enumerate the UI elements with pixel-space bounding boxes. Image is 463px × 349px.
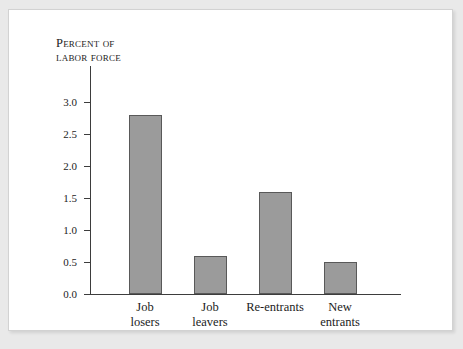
x-axis-line bbox=[90, 294, 401, 295]
y-tick-label: 2.0 bbox=[37, 161, 77, 172]
bar[interactable] bbox=[324, 262, 357, 294]
y-tick-mark bbox=[84, 294, 91, 295]
y-axis-title-line-2: labor force bbox=[56, 50, 121, 64]
bar[interactable] bbox=[259, 192, 292, 294]
y-tick-mark bbox=[84, 134, 91, 135]
bar-chart-plot-area: Percent of labor force 0.00.51.01.52.02.… bbox=[9, 10, 454, 332]
y-tick-mark bbox=[84, 262, 91, 263]
y-tick-label: 2.5 bbox=[37, 129, 77, 140]
x-category-label-line: leavers bbox=[165, 315, 255, 330]
x-category-label-line: entrants bbox=[295, 315, 385, 330]
y-tick-label: 1.0 bbox=[37, 225, 77, 236]
y-tick-label: 1.5 bbox=[37, 193, 77, 204]
y-tick-mark bbox=[84, 198, 91, 199]
y-tick-mark bbox=[84, 166, 91, 167]
y-tick-label: 0.5 bbox=[37, 257, 77, 268]
y-axis-title-line-1: Percent of bbox=[56, 36, 121, 50]
y-tick-mark bbox=[84, 102, 91, 103]
x-category-label: Newentrants bbox=[295, 300, 385, 330]
y-axis-line bbox=[90, 66, 91, 295]
figure-frame: Percent of labor force 0.00.51.01.52.02.… bbox=[8, 9, 453, 331]
bar[interactable] bbox=[194, 256, 227, 294]
x-category-label-line: New bbox=[295, 300, 385, 315]
y-tick-mark bbox=[84, 230, 91, 231]
y-tick-label: 0.0 bbox=[37, 289, 77, 300]
y-axis-title: Percent of labor force bbox=[56, 36, 121, 64]
bar[interactable] bbox=[129, 115, 162, 294]
y-tick-label: 3.0 bbox=[37, 97, 77, 108]
